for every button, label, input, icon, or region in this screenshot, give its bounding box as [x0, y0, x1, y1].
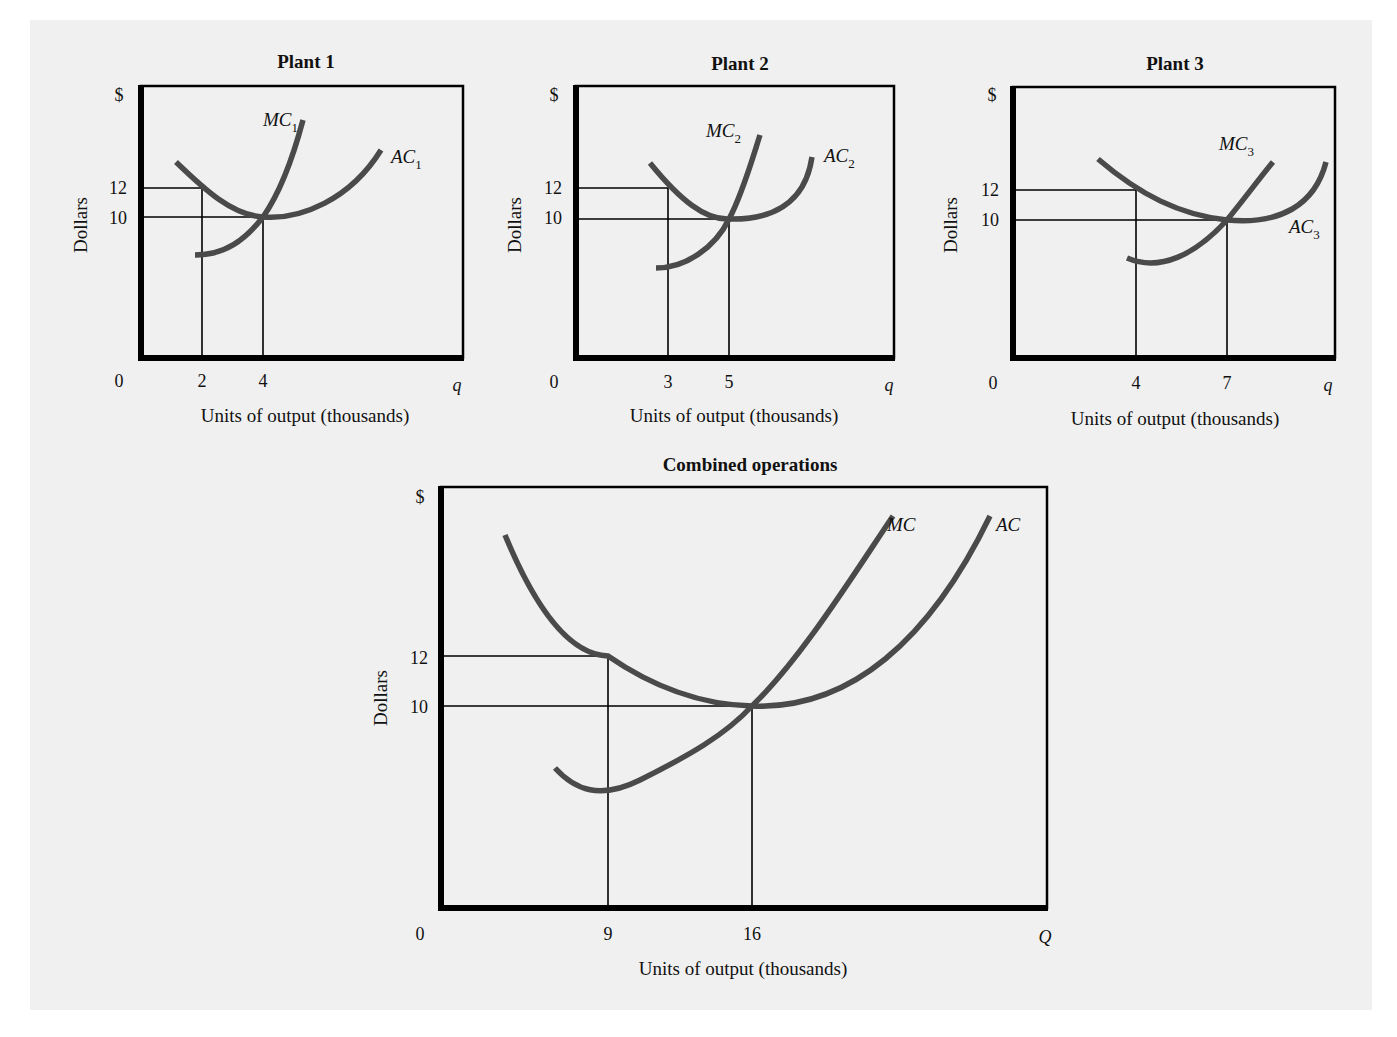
plot-frame [576, 86, 894, 358]
y-tick-12: 12 [410, 648, 428, 668]
mc-curve [656, 135, 760, 268]
ac-curve-label: AC3 [1287, 216, 1320, 242]
x-tick-2: 4 [259, 371, 268, 391]
x-tick-2: 5 [725, 372, 734, 392]
chart-title: Plant 3 [1146, 53, 1204, 74]
y-unit-label: $ [416, 487, 425, 507]
x-axis-title: Units of output (thousands) [639, 958, 847, 980]
mc-curve-label: MC2 [705, 120, 741, 146]
y-tick-10: 10 [544, 208, 562, 228]
x-tick-2: 16 [743, 924, 761, 944]
y-tick-10: 10 [981, 210, 999, 230]
x-tick-1: 9 [604, 924, 613, 944]
ac-curve-label: AC [994, 514, 1021, 535]
plot-frame [1013, 87, 1335, 358]
y-axis-title: Dollars [70, 197, 91, 253]
mc-curve-label: MC3 [1218, 133, 1254, 159]
mc-curve-label: MC1 [262, 109, 298, 135]
x-axis-title: Units of output (thousands) [201, 405, 409, 427]
plot-frame [441, 487, 1047, 908]
y-tick-12: 12 [981, 180, 999, 200]
y-unit-label: $ [115, 85, 124, 105]
origin-label: 0 [115, 371, 124, 391]
ac-curve-label: AC1 [389, 146, 422, 172]
x-tick-1: 4 [1132, 373, 1141, 393]
y-tick-12: 12 [544, 178, 562, 198]
x-tick-2: 7 [1223, 373, 1232, 393]
y-tick-10: 10 [109, 208, 127, 228]
x-variable-label: Q [1039, 927, 1052, 947]
mc-curve-label: MC [886, 514, 916, 535]
x-tick-1: 3 [664, 372, 673, 392]
chart-title: Combined operations [663, 454, 838, 475]
y-axis-title: Dollars [370, 670, 391, 726]
y-tick-12: 12 [109, 178, 127, 198]
chart-title: Plant 2 [711, 53, 769, 74]
x-tick-1: 2 [198, 371, 207, 391]
y-axis-title: Dollars [504, 197, 525, 253]
chart-combined: Combined operations$12100916QUnits of ou… [370, 454, 1052, 980]
x-variable-label: q [1324, 375, 1333, 395]
y-unit-label: $ [550, 85, 559, 105]
chart-plant3: Plant 3$1210047qUnits of output (thousan… [940, 53, 1336, 430]
x-variable-label: q [885, 375, 894, 395]
mc-curve [195, 120, 303, 255]
ac-curve [505, 516, 990, 706]
chart-title: Plant 1 [277, 51, 335, 72]
ac-curve-label: AC2 [822, 145, 855, 171]
y-tick-10: 10 [410, 697, 428, 717]
y-unit-label: $ [988, 85, 997, 105]
x-axis-title: Units of output (thousands) [630, 405, 838, 427]
y-axis-title: Dollars [940, 197, 961, 253]
origin-label: 0 [416, 924, 425, 944]
origin-label: 0 [550, 372, 559, 392]
x-axis-title: Units of output (thousands) [1071, 408, 1279, 430]
chart-plant2: Plant 2$1210035qUnits of output (thousan… [504, 53, 895, 427]
x-variable-label: q [453, 375, 462, 395]
origin-label: 0 [989, 373, 998, 393]
figure-canvas: Plant 1$1210024qUnits of output (thousan… [0, 0, 1397, 1037]
chart-plant1: Plant 1$1210024qUnits of output (thousan… [70, 51, 464, 427]
